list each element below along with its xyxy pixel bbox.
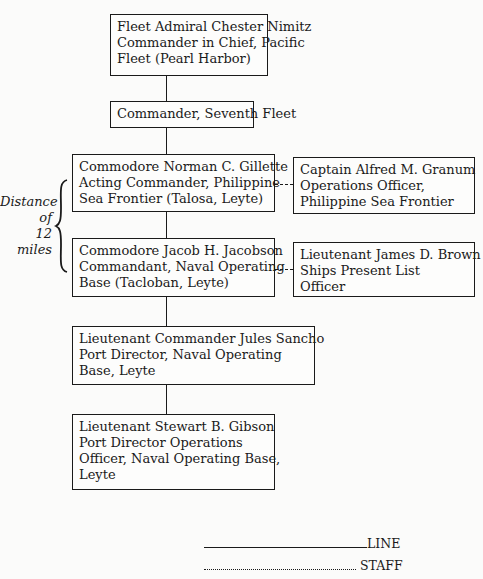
line-connector: [166, 127, 167, 154]
org-box-gibson: Lieutenant Stewart B. Gibson Port Direct…: [72, 414, 275, 490]
box-text: Commodore Norman C. Gillette: [79, 159, 268, 175]
line-connector: [166, 384, 167, 414]
box-text: Port Director, Naval Operating: [79, 347, 308, 363]
box-text: Officer: [300, 279, 468, 295]
distance-text: miles: [0, 242, 52, 258]
dashed-line-swatch: [204, 569, 356, 570]
legend-label: STAFF: [360, 558, 403, 573]
box-text: Philippine Sea Frontier: [300, 194, 468, 210]
box-text: Port Director Operations: [79, 435, 268, 451]
box-text: Commandant, Naval Operating: [79, 259, 268, 275]
legend-staff: STAFF: [204, 558, 403, 573]
org-box-brown: Lieutenant James D. Brown Ships Present …: [293, 242, 475, 297]
line-connector: [166, 75, 167, 102]
distance-text: of: [0, 210, 52, 226]
line-connector: [166, 211, 167, 238]
box-text: Commander, Seventh Fleet: [117, 106, 247, 122]
distance-note: Distance of 12 miles: [0, 194, 52, 258]
org-box-seventh-fleet: Commander, Seventh Fleet: [110, 101, 254, 128]
legend-label: LINE: [367, 536, 400, 551]
org-box-granum: Captain Alfred M. Granum Operations Offi…: [293, 157, 475, 214]
box-text: Ships Present List: [300, 263, 468, 279]
distance-text: 12: [0, 226, 52, 242]
box-text: Captain Alfred M. Granum: [300, 162, 468, 178]
box-text: Lieutenant James D. Brown: [300, 247, 468, 263]
box-text: Operations Officer,: [300, 178, 468, 194]
box-text: Sea Frontier (Talosa, Leyte): [79, 191, 268, 207]
org-box-sancho: Lieutenant Commander Jules Sancho Port D…: [72, 326, 315, 385]
org-box-gillette: Commodore Norman C. Gillette Acting Comm…: [72, 154, 275, 212]
box-text: Commander in Chief, Pacific: [117, 35, 261, 51]
box-text: Lieutenant Commander Jules Sancho: [79, 331, 308, 347]
org-box-jacobson: Commodore Jacob H. Jacobson Commandant, …: [72, 238, 275, 297]
box-text: Leyte: [79, 467, 268, 483]
org-box-nimitz: Fleet Admiral Chester Nimitz Commander i…: [110, 14, 268, 76]
legend-line: LINE: [204, 536, 400, 551]
box-text: Base (Tacloban, Leyte): [79, 275, 268, 291]
box-text: Base, Leyte: [79, 363, 308, 379]
brace-icon: [54, 178, 70, 274]
distance-text: Distance: [0, 194, 52, 210]
box-text: Officer, Naval Operating Base,: [79, 451, 268, 467]
line-connector: [166, 296, 167, 326]
box-text: Fleet (Pearl Harbor): [117, 51, 261, 67]
box-text: Lieutenant Stewart B. Gibson: [79, 419, 268, 435]
box-text: Fleet Admiral Chester Nimitz: [117, 19, 261, 35]
box-text: Acting Commander, Philippine: [79, 175, 268, 191]
solid-line-swatch: [204, 547, 367, 548]
box-text: Commodore Jacob H. Jacobson: [79, 243, 268, 259]
